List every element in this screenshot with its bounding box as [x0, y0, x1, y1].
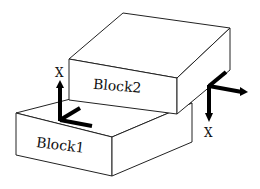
frame-block2: X	[204, 72, 248, 140]
diagram-canvas: Block1 Block2 X X	[0, 0, 260, 189]
block2: Block2	[69, 13, 230, 114]
frame2-y-arrowhead-icon	[240, 87, 248, 96]
frame2-y-axis	[209, 86, 242, 92]
frame2-x-arrowhead-icon	[205, 113, 213, 122]
frame2-x-label: X	[204, 126, 213, 140]
frame1-x-arrowhead-icon	[56, 80, 64, 88]
frame1-x-label: X	[55, 66, 64, 80]
